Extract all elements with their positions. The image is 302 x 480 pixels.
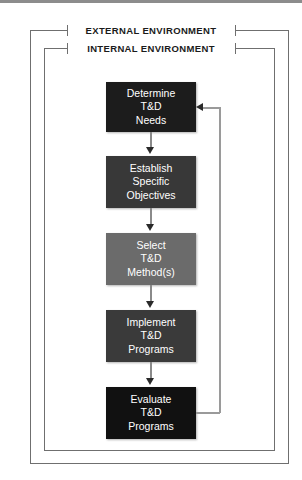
arrow-select-to-implement — [146, 301, 154, 308]
process-box-implement-td-programs[interactable]: Implement T&D Programs — [106, 310, 196, 362]
box-line-2: T&D — [141, 329, 162, 343]
process-box-select-td-methods[interactable]: Select T&D Method(s) — [106, 233, 196, 285]
external-frame-top-right — [235, 30, 289, 31]
internal-frame-cap-right — [235, 43, 236, 54]
arrow-establish-to-select — [146, 224, 154, 231]
box-line-1: Implement — [126, 316, 175, 330]
feedback-arrowhead — [196, 103, 203, 111]
arrow-determine-to-establish — [146, 147, 154, 154]
process-box-evaluate-td-programs[interactable]: Evaluate T&D Programs — [106, 387, 196, 439]
external-frame-top-left — [30, 30, 67, 31]
box-line-2: T&D — [141, 406, 162, 420]
feedback-segment-vertical — [219, 107, 221, 413]
external-frame-cap-right — [235, 25, 236, 36]
arrow-implement-to-evaluate — [146, 378, 154, 385]
box-line-3: Needs — [136, 114, 166, 128]
diagram-canvas: EXTERNAL ENVIRONMENT INTERNAL ENVIRONMEN… — [0, 0, 302, 480]
external-frame-cap-left — [67, 25, 68, 36]
box-line-2: T&D — [141, 252, 162, 266]
internal-frame-cap-left — [67, 43, 68, 54]
process-box-establish-specific-objectives[interactable]: Establish Specific Objectives — [106, 156, 196, 208]
box-line-2: T&D — [141, 100, 162, 114]
box-line-2: Specific — [133, 175, 170, 189]
box-line-3: Objectives — [126, 189, 175, 203]
process-box-determine-td-needs[interactable]: Determine T&D Needs — [106, 82, 196, 132]
feedback-segment-bottom — [196, 412, 220, 414]
box-line-3: Programs — [128, 343, 174, 357]
external-frame-right — [288, 30, 289, 464]
box-line-3: Method(s) — [127, 266, 174, 280]
box-line-1: Evaluate — [131, 393, 172, 407]
box-line-3: Programs — [128, 420, 174, 434]
external-frame-bottom — [30, 463, 289, 464]
box-line-1: Establish — [130, 162, 173, 176]
external-environment-label: EXTERNAL ENVIRONMENT — [71, 25, 231, 36]
box-line-1: Select — [136, 239, 165, 253]
external-frame-left — [30, 30, 31, 464]
internal-frame-top-left — [44, 48, 67, 49]
internal-frame-bottom — [44, 450, 275, 451]
scan-edge-artifact — [0, 0, 302, 3]
internal-frame-right — [274, 48, 275, 451]
internal-frame-top-right — [235, 48, 275, 49]
box-line-1: Determine — [127, 87, 175, 101]
feedback-segment-top — [203, 107, 220, 109]
internal-frame-left — [44, 48, 45, 451]
internal-environment-label: INTERNAL ENVIRONMENT — [71, 43, 231, 54]
